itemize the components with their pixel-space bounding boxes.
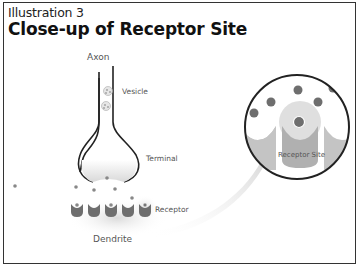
receptor-label: Receptor <box>155 205 189 214</box>
axon-terminal <box>79 60 139 182</box>
receptor-site-closeup <box>240 75 360 179</box>
axon-label: Axon <box>87 52 109 62</box>
vesicle-icon <box>102 87 113 111</box>
synapse-diagram <box>0 0 360 270</box>
terminal-label: Terminal <box>146 154 178 163</box>
vesicle-label: Vesicle <box>122 87 148 96</box>
neurotransmitter-molecules <box>13 176 134 200</box>
dendrite-label: Dendrite <box>93 234 132 244</box>
receptor-site-label: Receptor Site <box>278 151 325 159</box>
